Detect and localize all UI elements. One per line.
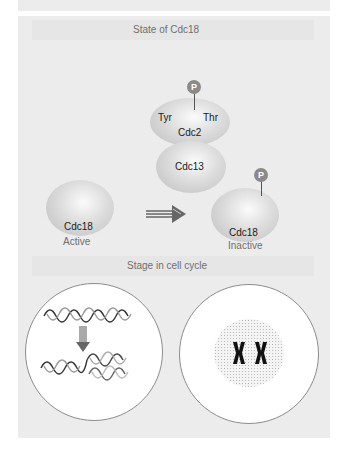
- cdc18-phospho-stem: [261, 180, 262, 196]
- cdc2-tyr-site: Tyr: [158, 112, 172, 123]
- transition-arrow-icon: [146, 203, 188, 225]
- cdc2-phosphate-icon: P: [187, 80, 201, 94]
- cdc18-inactive-label: Cdc18: [229, 227, 258, 238]
- state-title: State of Cdc18: [133, 24, 199, 35]
- cdc18-active-label: Cdc18: [64, 221, 93, 232]
- cdc18-phosphate-icon: P: [254, 168, 268, 182]
- top-strip: [18, 0, 330, 11]
- stage-title: Stage in cell cycle: [127, 260, 207, 271]
- cdc18-inactive-state: Inactive: [228, 240, 262, 251]
- cdc18-active-state: Active: [63, 236, 90, 247]
- diagram-panel: State of Cdc18 Tyr Thr Cdc2 P Cdc13 Cdc1…: [18, 16, 330, 438]
- cdc2-label: Cdc2: [178, 127, 201, 138]
- cdc13-label: Cdc13: [175, 161, 204, 172]
- chromosomes-icon: [231, 342, 271, 364]
- cdc2-thr-site: Thr: [203, 112, 218, 123]
- cdc2-phospho-stem: [194, 92, 195, 110]
- dna-replication-icon: [36, 296, 156, 406]
